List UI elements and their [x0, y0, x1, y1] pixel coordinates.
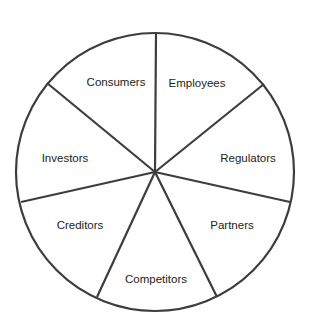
stakeholder-wheel: Employees Regulators Partners Competitor…	[0, 0, 309, 328]
wheel-spoke	[155, 172, 290, 202]
wheel-spoke	[21, 172, 155, 202]
segment-label-partners: Partners	[210, 219, 254, 231]
segment-label-creditors: Creditors	[57, 219, 104, 231]
wheel-spokes	[21, 33, 290, 297]
wheel-spoke	[155, 33, 156, 172]
segment-label-investors: Investors	[42, 152, 89, 164]
segment-label-consumers: Consumers	[87, 76, 146, 88]
segment-label-employees: Employees	[169, 77, 226, 89]
segment-label-regulators: Regulators	[220, 152, 276, 164]
segment-label-competitors: Competitors	[125, 273, 187, 285]
